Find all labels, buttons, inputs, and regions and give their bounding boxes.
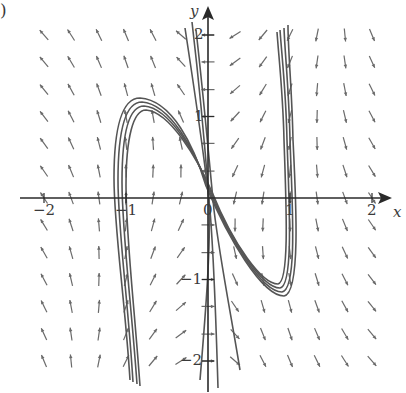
field-arrow-icon xyxy=(368,274,376,284)
field-arrow-icon xyxy=(123,56,128,68)
field-arrow-icon xyxy=(260,137,265,149)
y-tick-label: 2 xyxy=(194,27,204,42)
field-arrow-icon xyxy=(232,165,238,177)
field-arrow-icon xyxy=(288,300,292,313)
field-arrow-icon xyxy=(151,137,154,150)
field-arrow-icon xyxy=(178,219,184,231)
field-arrow-icon xyxy=(97,246,100,259)
field-arrow-icon xyxy=(368,247,376,258)
field-arrow-icon xyxy=(315,300,320,312)
y-tick-label: −2 xyxy=(180,353,202,368)
field-arrow-icon xyxy=(259,30,267,40)
x-tick-label: −2 xyxy=(33,203,55,218)
field-arrow-icon xyxy=(96,110,100,122)
field-arrow-icon xyxy=(97,218,100,231)
field-arrow-icon xyxy=(316,165,319,178)
x-tick-label: 2 xyxy=(367,203,377,218)
field-arrow-icon xyxy=(369,56,374,68)
field-arrow-icon xyxy=(150,56,155,68)
field-arrow-icon xyxy=(69,219,74,231)
field-arrow-icon xyxy=(369,84,375,96)
field-arrow-icon xyxy=(230,85,240,94)
field-arrow-icon xyxy=(41,355,46,367)
field-arrow-icon xyxy=(316,219,320,232)
field-arrow-icon xyxy=(97,165,101,178)
field-arrow-icon xyxy=(342,219,347,231)
field-arrow-icon xyxy=(342,274,348,286)
field-arrow-icon xyxy=(368,356,377,366)
field-arrow-icon xyxy=(315,137,318,150)
field-arrow-icon xyxy=(342,329,349,340)
field-arrow-icon xyxy=(261,218,264,231)
field-arrow-icon xyxy=(68,137,74,149)
field-arrow-icon xyxy=(314,355,320,367)
field-arrow-icon xyxy=(40,166,47,177)
field-arrow-icon xyxy=(232,274,237,286)
field-arrow-icon xyxy=(369,29,374,41)
field-arrow-icon xyxy=(96,29,102,41)
field-arrow-icon xyxy=(69,273,73,286)
panel-label: ) xyxy=(0,2,7,19)
field-arrow-icon xyxy=(177,57,186,67)
field-arrow-icon xyxy=(150,301,157,312)
field-arrow-icon xyxy=(343,29,346,42)
field-arrow-icon xyxy=(151,83,155,95)
field-arrow-icon xyxy=(231,112,240,122)
field-arrow-icon xyxy=(369,138,375,149)
field-arrow-icon xyxy=(149,356,157,366)
field-arrow-icon xyxy=(40,57,48,67)
field-arrow-icon xyxy=(97,300,100,313)
field-arrow-icon xyxy=(315,328,320,340)
field-arrow-icon xyxy=(177,247,184,258)
field-arrow-icon xyxy=(124,83,128,96)
field-arrow-icon xyxy=(68,165,73,177)
field-arrow-icon xyxy=(41,219,48,230)
field-arrow-icon xyxy=(40,85,48,95)
field-arrow-icon xyxy=(315,55,318,68)
field-arrow-icon xyxy=(230,58,241,66)
field-arrow-icon xyxy=(68,30,75,41)
field-arrow-icon xyxy=(342,301,348,312)
field-arrow-icon xyxy=(177,84,184,95)
field-arrow-icon xyxy=(176,302,186,311)
field-arrow-icon xyxy=(315,83,318,96)
field-arrow-icon xyxy=(260,111,266,123)
field-arrow-icon xyxy=(287,355,292,367)
field-arrow-icon xyxy=(98,328,101,341)
field-arrow-icon xyxy=(315,273,319,285)
x-tick-label: 1 xyxy=(285,203,295,218)
field-arrow-icon xyxy=(368,301,376,311)
field-arrow-icon xyxy=(343,165,348,177)
field-arrow-icon xyxy=(343,110,347,123)
field-arrow-icon xyxy=(259,57,267,68)
field-arrow-icon xyxy=(344,83,347,96)
field-arrow-icon xyxy=(231,301,238,312)
field-arrow-icon xyxy=(261,246,264,259)
field-arrow-icon xyxy=(260,328,265,340)
field-arrow-icon xyxy=(369,111,375,122)
field-arrow-icon xyxy=(230,32,241,39)
field-arrow-icon xyxy=(150,274,156,286)
field-arrow-icon xyxy=(151,165,154,178)
field-arrow-icon xyxy=(179,165,182,178)
field-arrow-icon xyxy=(233,218,236,231)
field-arrow-icon xyxy=(176,330,187,338)
field-arrow-icon xyxy=(96,56,101,68)
field-arrow-icon xyxy=(261,300,265,312)
field-arrow-icon xyxy=(260,84,267,95)
field-arrow-icon xyxy=(231,138,238,149)
field-arrow-icon xyxy=(40,138,48,149)
field-arrow-icon xyxy=(344,55,347,68)
field-arrow-icon xyxy=(151,219,155,232)
field-arrow-icon xyxy=(68,84,74,95)
field-arrow-icon xyxy=(41,274,47,285)
x-tick-label: −1 xyxy=(115,203,137,218)
field-arrow-icon xyxy=(261,165,265,178)
field-arrow-icon xyxy=(343,137,347,150)
field-arrow-icon xyxy=(123,29,128,41)
field-arrow-icon xyxy=(98,355,102,368)
field-arrow-icon xyxy=(68,111,74,123)
field-arrow-icon xyxy=(149,329,157,340)
field-arrow-icon xyxy=(369,166,376,177)
field-arrow-icon xyxy=(41,328,46,340)
